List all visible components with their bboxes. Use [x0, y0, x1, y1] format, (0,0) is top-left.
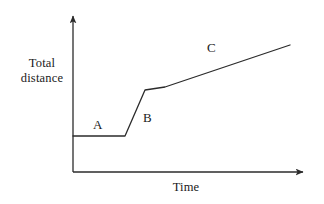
graph-canvas	[0, 0, 324, 204]
segment-label-a: A	[93, 118, 102, 131]
axes-group	[73, 16, 303, 172]
y-axis-label-line-1: Total	[12, 56, 72, 71]
distance-time-graph: Total distance Time A B C	[0, 0, 324, 204]
x-axis-label: Time	[160, 180, 212, 195]
segment-label-c: C	[207, 41, 216, 54]
y-axis-label-line-2: distance	[12, 71, 72, 86]
total-distance-line	[73, 45, 290, 136]
y-axis-label: Total distance	[12, 56, 72, 86]
data-line-group	[73, 45, 290, 136]
segment-label-b: B	[143, 111, 152, 124]
